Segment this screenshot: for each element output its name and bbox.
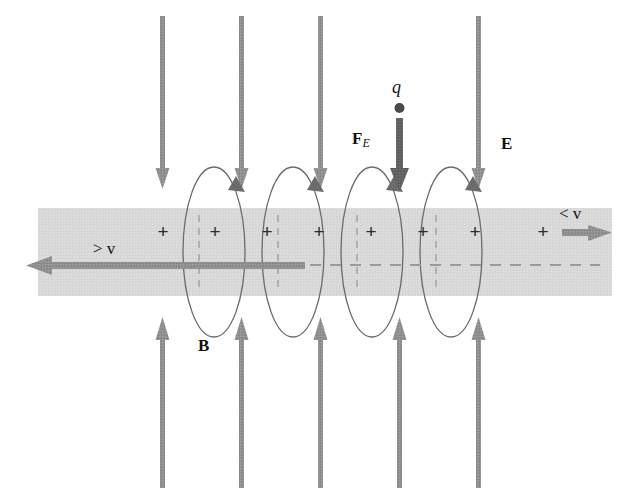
electric-field-label: E [501,135,512,152]
electric-field-arrows-top [156,16,486,189]
magnetic-field-label: B [198,337,209,354]
positive-charge-8: + [537,221,548,243]
test-charge-dot [395,103,405,113]
physics-diagram: + + + + + + + + q FE E B > v < v [0,0,637,500]
positive-charge-2: + [209,221,220,243]
e-field-arrow-up-3 [314,317,328,488]
positive-charge-6: + [417,221,428,243]
charged-beam-band [38,208,612,296]
charge-label-q: q [392,78,401,96]
e-field-arrow-up-5 [472,317,486,488]
e-field-arrow-up-1 [156,317,170,488]
e-field-arrow-down-4 [472,16,486,189]
positive-charge-4: + [313,221,324,243]
positive-charge-1: + [157,221,168,243]
velocity-left-label: > v [93,240,115,257]
velocity-right-label: < v [559,205,581,222]
e-field-arrow-down-1 [156,16,170,189]
positive-charge-5: + [365,221,376,243]
positive-charge-3: + [261,221,272,243]
electric-force-label: FE [352,130,370,149]
electric-force-subscript: E [362,136,369,150]
e-field-arrow-down-2 [235,16,249,189]
magnetic-loop-arrowheads [228,176,482,192]
positive-charge-7: + [469,221,480,243]
electric-force-symbol: F [352,129,362,148]
e-field-arrow-up-2 [235,317,249,488]
e-field-arrow-up-4 [393,317,407,488]
e-field-arrow-down-3 [314,16,328,189]
